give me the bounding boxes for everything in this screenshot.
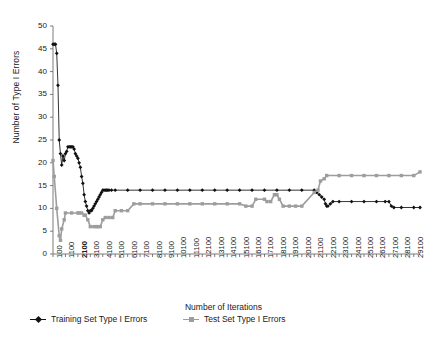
x-tick-label: 1100 [68,242,76,258]
x-tick-label: 6100 [131,241,139,258]
x-tick-label: 5100 [118,241,126,258]
x-tick-label: 100 [56,245,64,258]
x-tick-label: 25100 [367,237,375,258]
x-tick-label: 23100 [342,237,350,258]
x-tick-label: 7100 [143,241,151,258]
y-axis-title: Number of Type I Errors [11,27,21,167]
x-tick-label: 12100 [205,237,213,258]
y-tick-label: 10 [25,204,47,212]
x-tick-label: 3100 [93,241,101,258]
legend-marker-square-icon [183,315,199,324]
legend-item-test[interactable]: Test Set Type I Errors [183,314,286,324]
y-tick-label: 5 [25,227,47,235]
y-tick-label: 30 [25,113,47,121]
x-axis-title: Number of Iterations [0,302,447,312]
x-tick-label: 24100 [355,237,363,258]
y-tick-label: 40 [25,68,47,76]
x-tick-label: 18100 [280,237,288,258]
x-tick-label: 11100 [193,238,201,258]
y-tick-label: 50 [25,22,47,30]
x-tick-label: 19100 [292,237,300,258]
x-axis-tick-labels: 1001100210031004100510061007100810091001… [53,256,420,302]
x-tick-label: 14100 [230,237,238,258]
x-tick-label: 15100 [243,237,251,258]
x-tick-label: 29100 [417,237,425,258]
x-tick-label: 2100 [81,241,89,258]
legend-label-test: Test Set Type I Errors [204,314,286,324]
x-tick-label: 22100 [330,237,338,258]
x-tick-label: 4100 [106,241,114,258]
x-tick-label: 28100 [404,237,412,258]
y-tick-label: 25 [25,136,47,144]
x-tick-label: 17100 [267,237,275,258]
x-tick-label: 27100 [392,237,400,258]
chart-legend: Training Set Type I Errors Test Set Type… [0,314,447,334]
x-tick-label: 8100 [156,241,164,258]
x-tick-label: 26100 [379,237,387,258]
y-tick-label: 15 [25,182,47,190]
x-tick-label: 16100 [255,237,263,258]
legend-item-training[interactable]: Training Set Type I Errors [30,314,147,324]
x-tick-label: 20100 [305,237,313,258]
x-tick-label: 10100 [180,237,188,258]
chart-container: 05101520253035404550 Number of Type I Er… [0,0,447,340]
x-tick-label: 21100 [317,237,325,258]
x-tick-label: 13100 [218,237,226,258]
legend-label-training: Training Set Type I Errors [51,314,147,324]
y-tick-label: 45 [25,45,47,53]
y-tick-label: 0 [25,250,47,258]
x-tick-label: 9100 [168,241,176,258]
legend-marker-diamond-icon [30,315,46,324]
y-tick-label: 20 [25,159,47,167]
y-tick-label: 35 [25,90,47,98]
